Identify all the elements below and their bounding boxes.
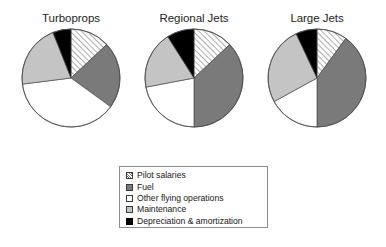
chart-legend: Pilot salariesFuelOther flying operation… <box>119 166 268 228</box>
legend-label: Maintenance <box>137 205 186 214</box>
pie-svg <box>267 28 367 128</box>
pie-title-turboprops: Turboprops <box>11 12 131 24</box>
legend-item: Pilot salaries <box>126 170 266 181</box>
legend-swatch-solid-icon <box>126 206 133 213</box>
pie-panel-turboprops: Turboprops <box>11 12 131 152</box>
legend-swatch-solid-icon <box>126 195 133 202</box>
pie-chart-figure: Turboprops Regional Jets Large Jets Pilo… <box>0 0 386 247</box>
legend-label: Pilot salaries <box>137 171 186 180</box>
pie-svg <box>144 28 244 128</box>
pie-panel-regional-jets: Regional Jets <box>134 12 254 152</box>
pie-svg <box>21 28 121 128</box>
pie-chart-large-jets <box>267 28 367 132</box>
legend-item: Depreciation & amortization <box>126 216 266 227</box>
legend-label: Other flying operations <box>137 194 223 203</box>
pie-chart-regional-jets <box>144 28 244 132</box>
pie-title-large-jets: Large Jets <box>257 12 377 24</box>
legend-swatch-solid-icon <box>126 218 133 225</box>
legend-item: Maintenance <box>126 204 266 215</box>
legend-item-list: Pilot salariesFuelOther flying operation… <box>126 170 266 227</box>
legend-swatch-diagonal-hatch-icon <box>126 172 133 179</box>
legend-label: Fuel <box>137 183 154 192</box>
legend-swatch-solid-icon <box>126 184 133 191</box>
legend-item: Other flying operations <box>126 193 266 204</box>
pie-panel-large-jets: Large Jets <box>257 12 377 152</box>
pie-chart-turboprops <box>21 28 121 132</box>
pie-title-regional-jets: Regional Jets <box>134 12 254 24</box>
legend-label: Depreciation & amortization <box>137 217 243 226</box>
legend-item: Fuel <box>126 181 266 192</box>
